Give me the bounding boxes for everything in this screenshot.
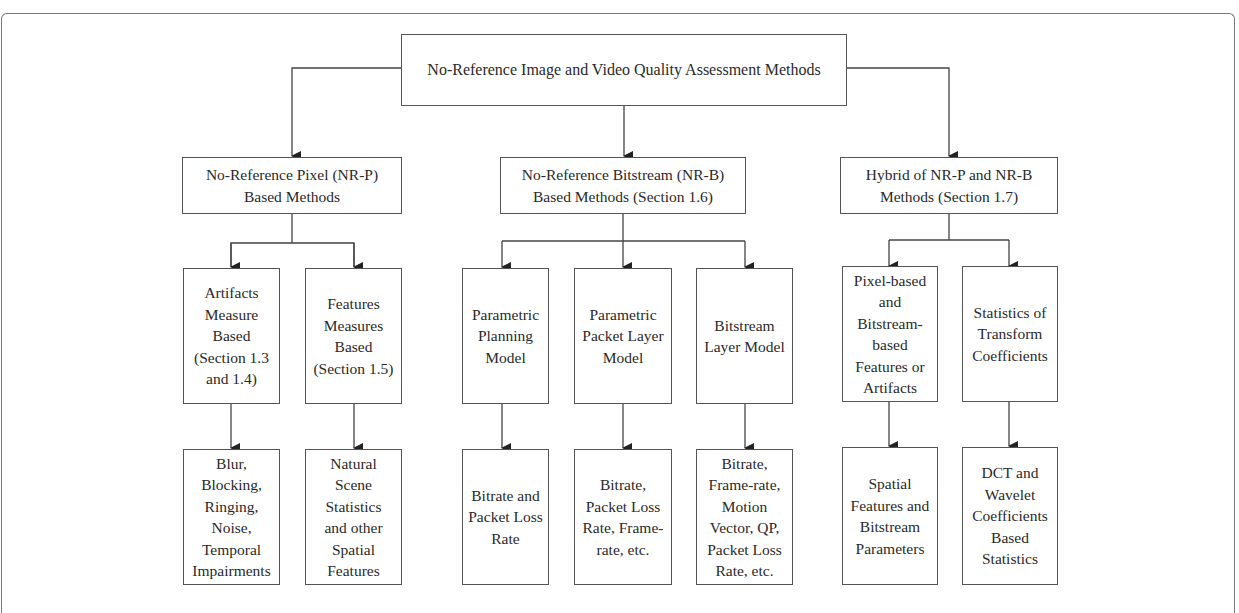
node-label: No-Reference Bitstream (NR-B) Based Meth… [522,164,724,207]
node-features-measures-based: Features Measures Based (Section 1.5) [305,268,402,404]
root-node: No-Reference Image and Video Quality Ass… [401,34,847,106]
node-artifacts-measure-based: Artifacts Measure Based (Section 1.3 and… [183,268,280,404]
node-blur-blocking-ringing: Blur, Blocking, Ringing, Noise, Temporal… [183,449,280,585]
node-dct-wavelet-statistics: DCT and Wavelet Coefficients Based Stati… [962,447,1058,585]
node-label: Pixel-based and Bitstream- based Feature… [854,270,926,399]
node-label: Bitrate and Packet Loss Rate [468,485,542,550]
node-natural-scene-statistics: Natural Scene Statistics and other Spati… [305,449,402,585]
node-label: Artifacts Measure Based (Section 1.3 and… [194,282,269,390]
node-label: Hybrid of NR-P and NR-B Methods (Section… [866,164,1032,207]
node-parametric-planning-model: Parametric Planning Model [462,268,549,404]
node-label: Bitstream Layer Model [704,315,784,358]
node-label: Statistics of Transform Coefficients [972,302,1047,367]
node-label: Spatial Features and Bitstream Parameter… [851,473,930,559]
node-label: Bitrate, Frame-rate, Motion Vector, QP, … [707,453,781,582]
node-hybrid-methods: Hybrid of NR-P and NR-B Methods (Section… [840,157,1058,214]
node-label: Parametric Packet Layer Model [582,304,663,369]
node-label: Bitrate, Packet Loss Rate, Frame- rate, … [583,474,664,560]
node-label: DCT and Wavelet Coefficients Based Stati… [972,462,1047,570]
node-pixel-and-bitstream-features: Pixel-based and Bitstream- based Feature… [842,266,938,402]
node-bitrate-motion-vector-qp: Bitrate, Frame-rate, Motion Vector, QP, … [696,449,793,585]
node-statistics-transform-coefficients: Statistics of Transform Coefficients [962,266,1058,402]
root-node-label: No-Reference Image and Video Quality Ass… [427,59,820,81]
node-label: Natural Scene Statistics and other Spati… [324,453,382,582]
node-nr-pixel-methods: No-Reference Pixel (NR-P) Based Methods [182,157,402,214]
node-bitrate-packet-loss: Bitrate and Packet Loss Rate [462,449,549,585]
node-parametric-packet-layer-model: Parametric Packet Layer Model [574,268,672,404]
node-label: Blur, Blocking, Ringing, Noise, Temporal… [192,453,270,582]
node-label: No-Reference Pixel (NR-P) Based Methods [206,164,378,207]
node-bitstream-layer-model: Bitstream Layer Model [696,268,793,404]
node-label: Parametric Planning Model [472,304,539,369]
node-bitrate-packet-loss-framerate: Bitrate, Packet Loss Rate, Frame- rate, … [574,449,672,585]
node-nr-bitstream-methods: No-Reference Bitstream (NR-B) Based Meth… [500,157,746,214]
node-label: Features Measures Based (Section 1.5) [313,293,393,379]
node-spatial-features-bitstream-params: Spatial Features and Bitstream Parameter… [842,447,938,585]
